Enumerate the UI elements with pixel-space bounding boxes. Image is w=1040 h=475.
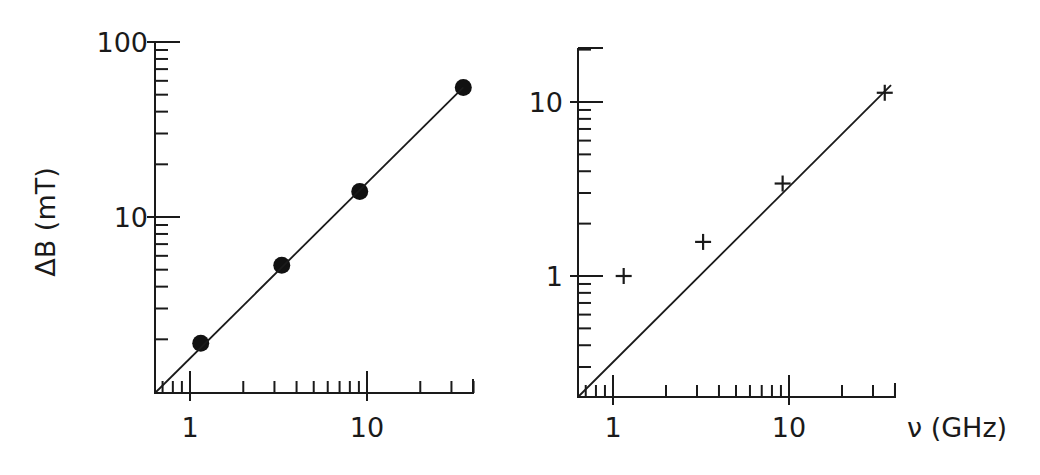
right-data-series	[578, 85, 893, 397]
left-x-tick-label-10: 10	[350, 412, 384, 443]
chart-canvas: ΔB (mT) 100 10 1 10 10 1 1 10 ν (GHz)	[0, 0, 1040, 475]
fit-line	[578, 85, 891, 397]
left-x-tick-label-1: 1	[181, 412, 198, 443]
right-x-axis-label: ν (GHz)	[907, 412, 1007, 443]
right-x-tick-label-10: 10	[772, 412, 806, 443]
data-point-plus	[616, 268, 632, 284]
data-point-circle	[351, 183, 368, 200]
right-axes	[570, 48, 895, 405]
data-point-plus	[877, 85, 893, 101]
data-point-plus	[695, 234, 711, 250]
data-point-plus	[775, 176, 791, 192]
left-y-tick-label-100: 100	[96, 27, 148, 58]
left-y-axis-label: ΔB (mT)	[30, 167, 61, 276]
right-y-tick-label-10: 10	[529, 87, 563, 118]
data-point-circle	[192, 335, 209, 352]
right-chart-panel: 10 1 1 10 ν (GHz)	[529, 48, 1008, 443]
right-x-tick-label-1: 1	[604, 412, 621, 443]
left-chart-panel: ΔB (mT) 100 10 1 10	[30, 27, 474, 443]
right-y-tick-label-1: 1	[546, 261, 563, 292]
figure: ΔB (mT) 100 10 1 10 10 1 1 10 ν (GHz)	[0, 0, 1040, 475]
fit-line	[155, 87, 463, 393]
data-point-circle	[273, 257, 290, 274]
axis-lines	[578, 48, 895, 397]
left-data-series	[155, 79, 472, 393]
left-y-tick-label-10: 10	[114, 202, 148, 233]
